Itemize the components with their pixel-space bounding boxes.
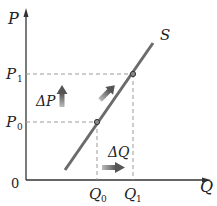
supply-diagram: P Q 0 S P 1 P 0 Q 0 Q 1 ΔP ΔQ [0, 0, 217, 206]
y-axis [24, 8, 29, 180]
y-axis-arrow-icon [24, 8, 29, 17]
svg-text:Q: Q [124, 185, 136, 203]
svg-text:0: 0 [17, 122, 23, 132]
p0-label: P 0 [5, 113, 23, 132]
svg-text:1: 1 [136, 194, 142, 204]
point-p0-q0 [94, 119, 99, 124]
svg-text:1: 1 [17, 74, 23, 84]
x-axis [26, 178, 211, 183]
diagonal-arrow-icon [96, 81, 119, 104]
curve-label: S [160, 26, 170, 44]
svg-text:0: 0 [101, 194, 107, 204]
svg-text:P: P [5, 113, 17, 131]
delta-q-label: ΔQ [107, 144, 130, 160]
origin-label: 0 [11, 176, 19, 191]
delta-q-arrow-icon [102, 162, 125, 173]
p1-label: P 1 [5, 65, 23, 84]
svg-text:Q: Q [89, 185, 101, 203]
delta-p-arrow-icon [57, 85, 68, 107]
svg-text:P: P [5, 65, 17, 83]
y-axis-label: P [7, 9, 19, 28]
q0-label: Q 0 [89, 185, 107, 204]
q1-label: Q 1 [124, 185, 142, 204]
x-axis-label: Q [200, 177, 213, 196]
point-p1-q1 [130, 71, 135, 76]
delta-p-label: ΔP [35, 93, 56, 109]
